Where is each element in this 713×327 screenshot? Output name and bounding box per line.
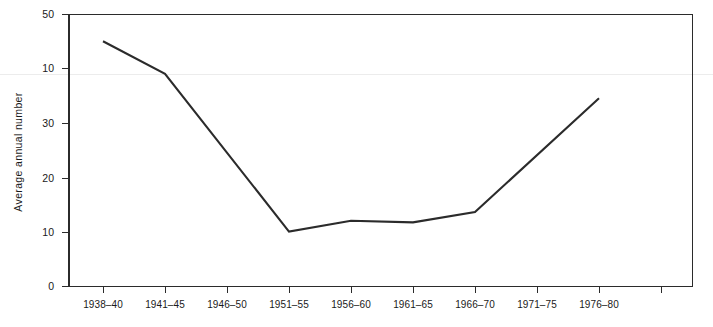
- data-series-layer: [0, 0, 713, 327]
- line-chart-figure: Average annual number 50 10 30 20 10 0: [0, 0, 713, 327]
- data-series-line: [103, 41, 599, 231]
